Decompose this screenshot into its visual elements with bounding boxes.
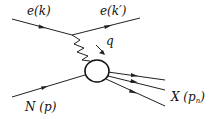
virtual-photon-line <box>72 35 90 61</box>
label-photon: q <box>106 34 114 48</box>
incoming-electron-line <box>12 19 72 35</box>
label-incoming-electron: e(k) <box>27 4 51 18</box>
photon-momentum-arrow <box>96 45 105 55</box>
label-final-state: X (pn) <box>170 90 205 105</box>
dis-feynman-diagram: e(k) e(k′) q N (p) X (pn) <box>0 0 217 119</box>
hadronic-vertex-blob <box>85 60 109 82</box>
label-outgoing-electron: e(k′) <box>100 4 127 18</box>
label-nucleon: N (p) <box>24 100 57 114</box>
outgoing-hadron-lines <box>106 72 165 106</box>
arrow-icon <box>39 25 47 29</box>
incoming-nucleon-line <box>12 75 85 97</box>
arrow-icon <box>104 25 112 29</box>
arrow-icon <box>41 86 48 90</box>
outgoing-electron-line <box>72 18 140 35</box>
